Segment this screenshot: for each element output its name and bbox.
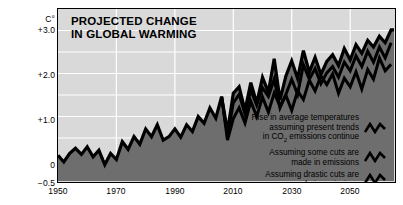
- legend-line-3: in CO2 emissions continue: [252, 132, 359, 145]
- legend-item-drastic-cuts: Assuming drastic cuts are made in emissi…: [196, 170, 386, 183]
- x-tick-2010: 2010: [213, 186, 253, 196]
- chart-legend: Rise in average temperatures assuming pr…: [196, 113, 386, 183]
- x-axis: 1950 1970 1990 2010 2030 2050: [0, 186, 403, 202]
- legend-item-present-trends: Rise in average temperatures assuming pr…: [196, 113, 386, 145]
- legend-line-2: assuming present trends: [252, 123, 359, 133]
- legend-line-1: Assuming some cuts are: [269, 148, 359, 158]
- y-axis-unit-label: C°: [3, 14, 55, 24]
- chart-figure: C° +3.0 +2.0 +1.0 0 −0.5: [0, 0, 403, 205]
- legend-line-1: Assuming drastic cuts are: [265, 170, 359, 180]
- legend-line-2: made in emissions: [265, 180, 359, 183]
- zigzag-line-icon: [364, 149, 386, 167]
- zigzag-line-icon: [364, 171, 386, 183]
- x-tick-1950: 1950: [38, 186, 78, 196]
- x-tick-2050: 2050: [330, 186, 370, 196]
- legend-line-1: Rise in average temperatures: [252, 113, 359, 123]
- plot-area: PROJECTED CHANGE IN GLOBAL WARMING Rise …: [57, 8, 396, 183]
- y-tick-3.0: +3.0: [3, 25, 55, 35]
- x-tick-1970: 1970: [96, 186, 136, 196]
- x-tick-1990: 1990: [155, 186, 195, 196]
- zigzag-line-icon: [364, 120, 386, 138]
- y-tick-2.0: +2.0: [3, 70, 55, 80]
- y-tick-0: 0: [3, 160, 55, 170]
- legend-label-present-trends: Rise in average temperatures assuming pr…: [252, 113, 364, 145]
- y-axis: C° +3.0 +2.0 +1.0 0 −0.5: [0, 0, 55, 205]
- chart-title-line-1: PROJECTED CHANGE: [71, 15, 197, 28]
- co2-subscript: 2: [284, 137, 287, 143]
- chart-title: PROJECTED CHANGE IN GLOBAL WARMING: [71, 15, 197, 40]
- legend-line-2: made in emissions: [269, 158, 359, 168]
- legend-label-drastic-cuts: Assuming drastic cuts are made in emissi…: [265, 170, 364, 183]
- legend-label-some-cuts: Assuming some cuts are made in emissions: [269, 148, 364, 167]
- y-tick-1.0: +1.0: [3, 115, 55, 125]
- chart-title-line-2: IN GLOBAL WARMING: [71, 28, 197, 41]
- x-tick-2030: 2030: [272, 186, 312, 196]
- legend-item-some-cuts: Assuming some cuts are made in emissions: [196, 148, 386, 167]
